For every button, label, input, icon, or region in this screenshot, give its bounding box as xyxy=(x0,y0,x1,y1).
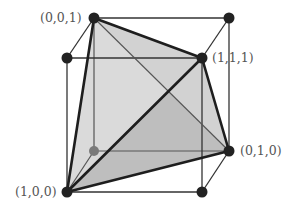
vertex-bottom-right xyxy=(197,187,208,198)
vertex-1-1-1 xyxy=(197,53,208,64)
vertex-0-0-1 xyxy=(89,13,100,24)
vertex-top-right xyxy=(224,13,235,24)
vertex-0-1-0 xyxy=(224,146,235,157)
vertex-1-0-0 xyxy=(62,187,73,198)
label-1-1-1: (1,1,1) xyxy=(212,50,254,65)
label-0-1-0: (0,1,0) xyxy=(240,143,282,158)
tetrahedron-cube-diagram: (0,0,1) (1,1,1) (0,1,0) (1,0,0) xyxy=(0,0,297,212)
vertex-back-top-left xyxy=(62,53,73,64)
vertex-hidden xyxy=(89,146,99,156)
label-1-0-0: (1,0,0) xyxy=(15,184,57,199)
label-0-0-1: (0,0,1) xyxy=(40,10,82,25)
